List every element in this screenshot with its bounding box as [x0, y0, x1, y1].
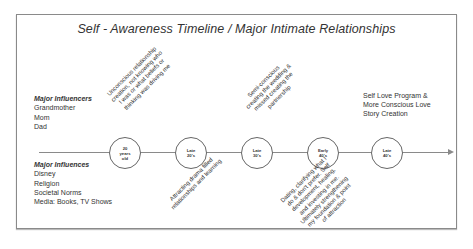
major-influencers-header: Major Influencers	[34, 94, 92, 103]
influence-item: Disney	[34, 169, 112, 178]
influencer-item: Dad	[34, 122, 92, 131]
annotation-self-love-program: Self Love Program & More Conscious Love …	[363, 91, 431, 118]
node-label: Late 30's	[246, 148, 268, 158]
major-influences-list: Major Influences Disney Religion Societa…	[34, 160, 112, 206]
annotation-dating-clarifying: Dating, clarifying what I do & don't pre…	[279, 155, 360, 236]
timeline-node-late-40s: Late 40's	[371, 137, 403, 169]
node-label: 20 years old	[114, 146, 136, 161]
influencer-item: Grandmother	[34, 103, 92, 112]
diagram-frame: Self - Awareness Timeline / Major Intima…	[16, 14, 457, 229]
annotation-semi-conscious: Semi-conscious creating the wedding & mi…	[240, 58, 304, 122]
influence-item: Societal Norms	[34, 188, 112, 197]
influence-item: Media: Books, TV Shows	[34, 197, 112, 206]
timeline-node-late-30s: Late 30's	[241, 137, 273, 169]
timeline-node-20-years: 20 years old	[109, 137, 141, 169]
diagram-title: Self - Awareness Timeline / Major Intima…	[17, 22, 456, 36]
node-label: Late 40's	[376, 148, 398, 158]
influencer-item: Mom	[34, 113, 92, 122]
node-label: Late 20's	[180, 148, 202, 158]
influence-item: Religion	[34, 179, 112, 188]
major-influencers-list: Major Influencers Grandmother Mom Dad	[34, 94, 92, 131]
major-influences-header: Major Influences	[34, 160, 112, 169]
annotation-unconscious-creation: Unconscious relationship creation, not k…	[105, 45, 174, 114]
timeline-arrow-icon	[448, 149, 454, 155]
